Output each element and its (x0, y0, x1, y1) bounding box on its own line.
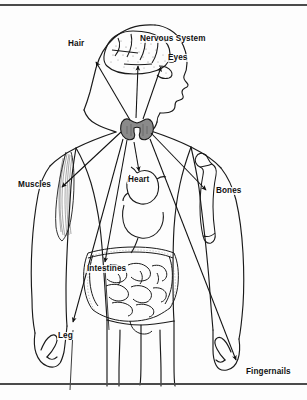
bottom-rule (0, 383, 307, 385)
label-muscles: Muscles (17, 181, 52, 189)
heart (123, 167, 166, 204)
humerus-bone (195, 153, 216, 243)
label-leg: Leg (57, 332, 74, 340)
anatomy-figure: Hair Nervous System Eyes Muscles Heart B… (0, 0, 307, 400)
intestines (84, 247, 179, 334)
stomach (123, 205, 164, 253)
anatomy-diagram (0, 0, 307, 400)
arrow-to-heart (134, 142, 139, 171)
label-bones: Bones (215, 187, 243, 195)
label-hair: Hair (67, 40, 85, 48)
thyroid-gland (121, 119, 154, 140)
arrow-to-eyes (143, 67, 161, 119)
arrow-to-intestines (105, 140, 127, 262)
label-intestines: Intestines (86, 265, 127, 273)
label-nervous-system: Nervous System (139, 35, 207, 43)
thyroid-arrows (62, 62, 236, 360)
arrow-tails (70, 268, 109, 390)
label-fingernails: Fingernails (245, 368, 292, 376)
arrow-to-leg (73, 139, 123, 322)
label-eyes: Eyes (167, 54, 189, 62)
label-heart: Heart (127, 176, 150, 184)
